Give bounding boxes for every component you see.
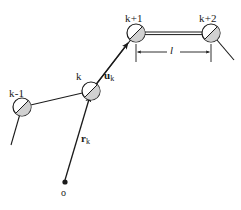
chain-link-diagram: k-1 k k+1 k+2 uk rk l o: [0, 0, 241, 210]
bead-k-plus-2: [202, 24, 221, 43]
bond-km1-k: [22, 91, 91, 107]
unit-vector-subscript: k: [110, 74, 114, 83]
bead-k-minus-1: [13, 98, 32, 117]
origin-dot: [62, 179, 67, 184]
diagram-canvas: [0, 0, 241, 210]
label-node-k: k: [76, 71, 82, 82]
chain-bonds: [11, 32, 234, 145]
bond-length-dimension: [136, 44, 211, 62]
label-node-k-plus-1: k+1: [125, 13, 143, 24]
label-position-vector-r-k: rk: [81, 133, 90, 146]
label-origin: o: [61, 188, 66, 198]
bead-k: [82, 82, 101, 101]
label-unit-vector-u-k: uk: [104, 70, 114, 83]
bead-k-plus-1: [127, 24, 146, 43]
label-bond-length: l: [170, 45, 173, 56]
position-vector-subscript: k: [86, 137, 90, 146]
label-node-k-minus-1: k-1: [9, 88, 24, 99]
beads: [13, 24, 221, 117]
label-node-k-plus-2: k+2: [199, 13, 217, 24]
